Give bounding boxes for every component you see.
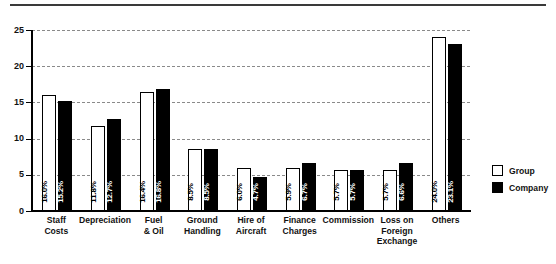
- bar-group[interactable]: 16.4%: [140, 92, 154, 211]
- legend-swatch-company-icon: [492, 182, 503, 193]
- bar-value-label: 5.7%: [332, 183, 341, 200]
- bar-group[interactable]: 5.7%: [334, 170, 348, 211]
- x-axis-label-line: Finance: [273, 215, 327, 226]
- x-axis-label-line: Others: [419, 215, 473, 226]
- x-axis-label: Depreciation: [78, 215, 132, 226]
- bar-group[interactable]: 11.8%: [91, 126, 105, 211]
- bar-group: 16.0%15.2%: [42, 30, 72, 211]
- x-axis-label-line: Fuel: [127, 215, 181, 226]
- bar-group: 8.5%8.5%: [188, 30, 218, 211]
- bar-value-label: 23.1%: [446, 181, 455, 203]
- bar-company[interactable]: 12.7%: [107, 119, 121, 211]
- bar-value-label: 4.7%: [251, 183, 260, 200]
- bar-company[interactable]: 6.7%: [302, 163, 316, 212]
- bar-value-label: 5.7%: [381, 183, 390, 200]
- x-axis-label-line: Aircraft: [224, 226, 278, 237]
- bar-group[interactable]: 6.0%: [237, 168, 251, 211]
- chart-page: 0510152025 16.0%15.2%11.8%12.7%16.4%16.8…: [0, 0, 556, 264]
- x-axis-label-line: Loss on: [370, 215, 424, 226]
- bar-value-label: 16.8%: [154, 181, 163, 203]
- x-axis-label: Others: [419, 215, 473, 226]
- bar-value-label: 12.7%: [105, 181, 114, 203]
- bar-group: 5.7%5.7%: [334, 30, 364, 211]
- bar-company[interactable]: 16.8%: [156, 89, 170, 211]
- x-axis-label-line: Charges: [273, 226, 327, 237]
- x-axis-label: Commission: [321, 215, 375, 226]
- y-tick-label: 25: [2, 26, 24, 35]
- y-tick-label: 5: [2, 170, 24, 179]
- y-tick-label: 0: [2, 207, 24, 216]
- bar-value-label: 6.7%: [300, 183, 309, 200]
- bar-value-label: 8.5%: [186, 183, 195, 200]
- legend-label-group: Group: [509, 166, 535, 176]
- x-axis-label-line: & Oil: [127, 226, 181, 237]
- x-axis-label-line: Depreciation: [78, 215, 132, 226]
- legend-item-company[interactable]: Company: [492, 180, 548, 195]
- x-axis-label: GroundHandling: [175, 215, 229, 236]
- bar-group[interactable]: 16.0%: [42, 95, 56, 211]
- bar-group[interactable]: 5.9%: [286, 168, 300, 211]
- chart-legend: Group Company: [492, 163, 548, 197]
- bar-value-label: 5.9%: [284, 183, 293, 200]
- y-tick-label: 10: [2, 134, 24, 143]
- x-axis-label-line: Ground: [175, 215, 229, 226]
- bar-group[interactable]: 5.7%: [383, 170, 397, 211]
- x-axis-label-line: Handling: [175, 226, 229, 237]
- bar-company[interactable]: 23.1%: [448, 44, 462, 211]
- bar-group: 11.8%12.7%: [91, 30, 121, 211]
- bar-value-label: 8.5%: [202, 183, 211, 200]
- x-axis-label-line: Hire of: [224, 215, 278, 226]
- x-axis-label-line: Commission: [321, 215, 375, 226]
- bar-value-label: 6.0%: [235, 183, 244, 200]
- x-axis-label: Loss onForeignExchange: [370, 215, 424, 247]
- x-axis-label: Fuel& Oil: [127, 215, 181, 236]
- x-axis-label: StaffCosts: [29, 215, 83, 236]
- bar-company[interactable]: 15.2%: [58, 101, 72, 211]
- bar-group[interactable]: 8.5%: [188, 149, 202, 211]
- bar-company[interactable]: 5.7%: [350, 170, 364, 211]
- legend-swatch-group-icon: [492, 165, 503, 176]
- y-tick-label: 20: [2, 62, 24, 71]
- bar-value-label: 15.2%: [56, 181, 65, 203]
- x-axis-label-line: Staff: [29, 215, 83, 226]
- legend-item-group[interactable]: Group: [492, 163, 548, 178]
- bar-company[interactable]: 4.7%: [253, 177, 267, 211]
- legend-label-company: Company: [509, 183, 548, 193]
- bar-value-label: 16.0%: [40, 181, 49, 203]
- bar-group[interactable]: 24.0%: [432, 37, 446, 211]
- x-axis-label: Hire ofAircraft: [224, 215, 278, 236]
- x-axis-label: FinanceCharges: [273, 215, 327, 236]
- bar-group: 24.0%23.1%: [432, 30, 462, 211]
- y-tick-label: 15: [2, 98, 24, 107]
- grouped-bar-chart: 0510152025 16.0%15.2%11.8%12.7%16.4%16.8…: [0, 0, 556, 264]
- bar-company[interactable]: 8.5%: [204, 149, 218, 211]
- bar-value-label: 16.4%: [138, 181, 147, 203]
- bar-value-label: 11.8%: [89, 181, 98, 202]
- x-axis-label-line: Costs: [29, 226, 83, 237]
- bar-group: 5.7%6.6%: [383, 30, 413, 211]
- bar-value-label: 24.0%: [430, 181, 439, 203]
- x-axis-label-line: Exchange: [370, 236, 424, 247]
- bar-value-label: 6.6%: [397, 183, 406, 200]
- bar-company[interactable]: 6.6%: [399, 163, 413, 211]
- bar-group: 6.0%4.7%: [237, 30, 267, 211]
- bar-group: 16.4%16.8%: [140, 30, 170, 211]
- plot-area: 16.0%15.2%11.8%12.7%16.4%16.8%8.5%8.5%6.…: [32, 30, 470, 211]
- x-axis-label-line: Foreign: [370, 226, 424, 237]
- bar-value-label: 5.7%: [348, 183, 357, 200]
- bar-group: 5.9%6.7%: [286, 30, 316, 211]
